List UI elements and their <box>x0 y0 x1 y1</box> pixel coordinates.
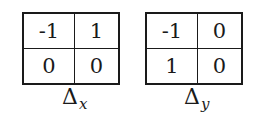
kernel-row: 0 0 <box>23 49 119 85</box>
kernel-cell: 1 <box>75 13 120 49</box>
kernel-cell: -1 <box>23 13 75 49</box>
kernel-cell: -1 <box>146 13 198 49</box>
kernel-cell: 0 <box>75 49 120 85</box>
kernel-delta-y-grid: -1 0 1 0 <box>145 12 243 85</box>
kernel-delta-y-label: Δy <box>184 86 209 108</box>
kernel-row: -1 1 <box>23 13 119 49</box>
kernel-cell: 1 <box>146 49 198 85</box>
kernel-row: 1 0 <box>146 49 242 85</box>
delta-symbol: Δ <box>184 84 200 109</box>
subscript: y <box>201 95 209 113</box>
kernel-delta-x-grid: -1 1 0 0 <box>22 12 120 85</box>
kernel-cell: 0 <box>23 49 75 85</box>
delta-symbol: Δ <box>62 84 78 109</box>
kernel-delta-x-label: Δx <box>62 86 87 108</box>
kernel-delta-x: -1 1 0 0 <box>22 12 120 85</box>
kernel-cell: 0 <box>198 49 243 85</box>
kernel-row: -1 0 <box>146 13 242 49</box>
kernel-delta-y: -1 0 1 0 <box>145 12 243 85</box>
subscript: x <box>79 95 87 113</box>
kernel-cell: 0 <box>198 13 243 49</box>
